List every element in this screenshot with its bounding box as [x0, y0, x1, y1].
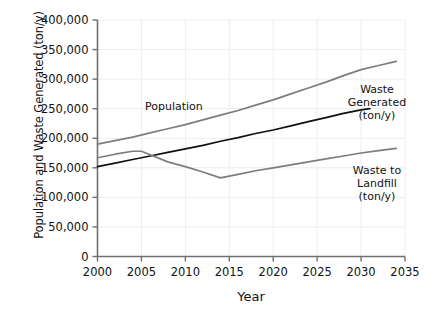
- series-label-waste-generated-line1: Waste: [360, 83, 394, 96]
- series-line-waste-to-landfill-ton-y: [98, 148, 397, 178]
- x-tick-label: 2015: [215, 265, 244, 279]
- x-tick-label: 2030: [346, 265, 375, 279]
- line-chart-plot: 050,000100,000150,000200,000250,000300,0…: [0, 0, 435, 315]
- y-tick-label: 400,000: [41, 13, 89, 27]
- series-label-waste-landfill-line1: Waste to: [353, 164, 402, 177]
- x-tick-label: 2000: [83, 265, 112, 279]
- series-label-population: Population: [145, 100, 203, 113]
- y-tick-label: 200,000: [41, 131, 89, 145]
- y-axis-ticks: 050,000100,000150,000200,000250,000300,0…: [41, 13, 98, 264]
- series-label-waste-generated-line2: Generated: [348, 96, 406, 109]
- y-tick-label: 50,000: [48, 220, 88, 234]
- y-tick-label: 0: [81, 250, 88, 264]
- y-tick-label: 300,000: [41, 72, 89, 86]
- y-tick-label: 150,000: [41, 161, 89, 175]
- gridlines: [98, 20, 406, 257]
- y-tick-label: 350,000: [41, 43, 89, 57]
- y-tick-label: 100,000: [41, 190, 89, 204]
- x-tick-label: 2010: [171, 265, 200, 279]
- series-label-waste-landfill-line3: (ton/y): [359, 190, 396, 203]
- x-tick-label: 2005: [127, 265, 156, 279]
- y-tick-label: 250,000: [41, 102, 89, 116]
- x-tick-label: 2025: [303, 265, 332, 279]
- chart-container: Population and Waste Generated (ton/y) Y…: [0, 0, 435, 315]
- x-axis-ticks: 20002005201020152020202520302035: [83, 257, 420, 279]
- x-tick-label: 2020: [259, 265, 288, 279]
- x-tick-label: 2035: [390, 265, 419, 279]
- series-label-waste-generated-line3: (ton/y): [359, 109, 396, 122]
- series-label-waste-landfill-line2: Landfill: [357, 177, 397, 190]
